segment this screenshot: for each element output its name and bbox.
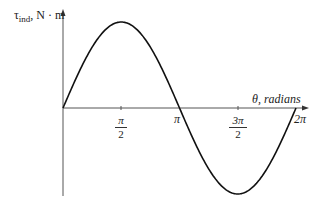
tick-label-3pi-half: 3π2	[229, 115, 247, 140]
tick-label-2pi: 2π	[294, 112, 306, 127]
tick-label-pi-half: π2	[115, 115, 127, 140]
x-axis-arrow-icon	[302, 106, 309, 111]
tick-label-pi: π	[174, 112, 180, 127]
y-axis-label: τind, N · m	[14, 8, 64, 24]
x-axis-label: θ, radians	[252, 92, 301, 107]
